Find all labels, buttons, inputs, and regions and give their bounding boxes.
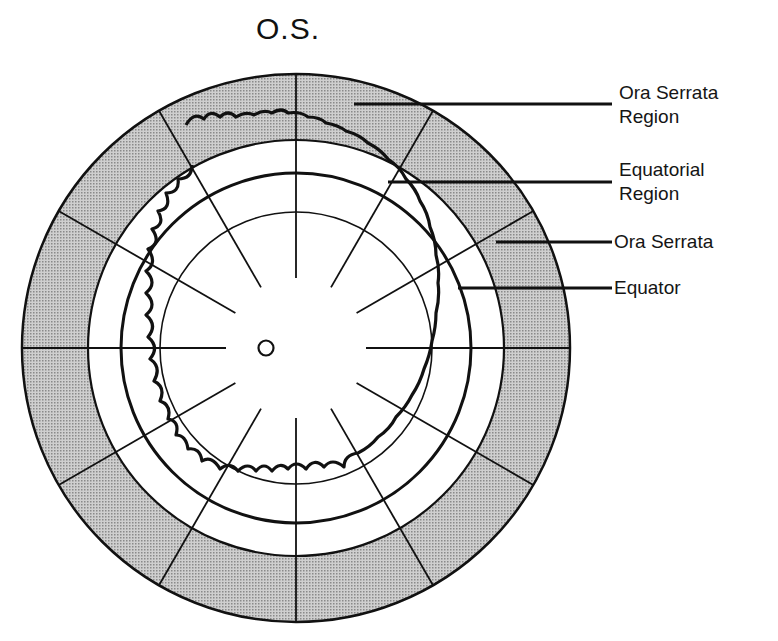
label-equatorial-region: Equatorial Region xyxy=(619,158,705,206)
label-ora-serrata-region: Ora Serrata Region xyxy=(619,81,718,129)
optic-disc xyxy=(259,341,274,356)
label-equator: Equator xyxy=(614,276,681,300)
label-ora-serrata: Ora Serrata xyxy=(614,230,713,254)
